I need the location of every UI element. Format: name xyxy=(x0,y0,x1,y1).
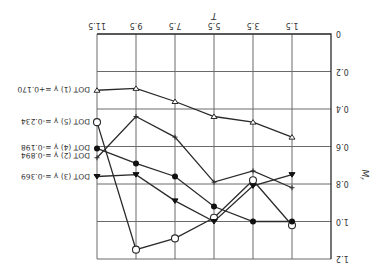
y-axis-label: Mr xyxy=(359,170,370,181)
y-tick-label: 0.8 xyxy=(336,179,349,188)
x-tick-label: 9.5 xyxy=(130,21,143,30)
open-triangle-marker xyxy=(133,86,139,91)
open-circle-marker xyxy=(172,235,179,242)
filled-circle-marker xyxy=(289,219,295,225)
x-tick-label: 1.5 xyxy=(286,21,299,30)
y-tick-label: 0 xyxy=(336,29,341,38)
series-line xyxy=(97,88,292,137)
series-line xyxy=(97,117,292,188)
open-triangle-marker xyxy=(172,99,178,104)
axes: 00.20.40.60.81.01.21.53.55.57.59.511.5TM… xyxy=(88,11,370,263)
filled-circle-marker xyxy=(172,174,178,180)
legend-entry: DOT (1) γ =+0.170 xyxy=(17,85,90,94)
open-triangle-marker xyxy=(289,135,295,140)
legend: DOT (1) γ =+0.170DOT (5) γ =-0.234DOT (4… xyxy=(17,85,90,180)
y-tick-label: 1.0 xyxy=(336,217,349,226)
x-tick-label: 5.5 xyxy=(208,21,221,30)
open-circle-marker xyxy=(94,119,101,126)
series-dot-1 xyxy=(94,86,295,139)
open-circle-marker xyxy=(250,177,257,184)
series-line xyxy=(97,122,292,250)
filled-triangle-marker xyxy=(94,175,100,180)
open-triangle-marker xyxy=(211,114,217,119)
y-axis-label-subscript: r xyxy=(359,177,366,180)
legend-entry: DOT (5) γ =-0.234 xyxy=(21,117,90,126)
open-circle-marker xyxy=(133,246,140,253)
x-tick-label: 7.5 xyxy=(169,21,182,30)
filled-circle-marker xyxy=(211,204,217,210)
series-dot-5 xyxy=(94,119,296,254)
x-axis-label: T xyxy=(210,11,217,21)
y-tick-label: 0.6 xyxy=(336,142,349,151)
open-triangle-marker xyxy=(94,88,100,93)
line-chart: 00.20.40.60.81.01.21.53.55.57.59.511.5TM… xyxy=(0,0,370,277)
series-line xyxy=(97,175,292,222)
filled-circle-marker xyxy=(133,160,139,166)
series-dot-3 xyxy=(94,173,295,224)
legend-entry: DOT (2) γ =-0.894 xyxy=(21,151,90,160)
series-dot-2 xyxy=(95,114,295,190)
y-tick-label: 1.2 xyxy=(336,254,349,263)
legend-entry: DOT (3) γ =-0.369 xyxy=(21,172,90,181)
y-tick-label: 0.4 xyxy=(336,104,349,113)
x-tick-label: 11.5 xyxy=(88,21,106,30)
filled-triangle-marker xyxy=(211,220,217,225)
y-tick-label: 0.2 xyxy=(336,67,349,76)
x-tick-label: 3.5 xyxy=(247,21,260,30)
rotated-figure: 00.20.40.60.81.01.21.53.55.57.59.511.5TM… xyxy=(0,0,370,277)
filled-circle-marker xyxy=(94,145,100,151)
open-triangle-marker xyxy=(250,120,256,125)
filled-circle-marker xyxy=(250,219,256,225)
filled-triangle-marker xyxy=(289,173,295,178)
series-lines xyxy=(94,86,296,253)
